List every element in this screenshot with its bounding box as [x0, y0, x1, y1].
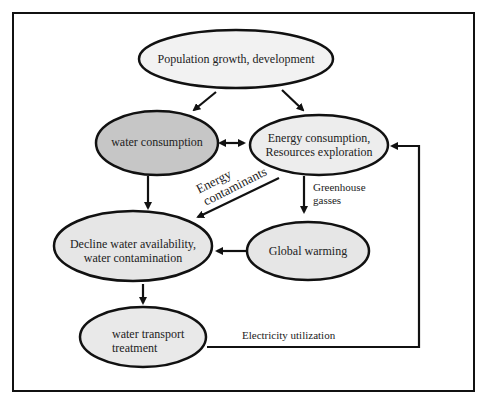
arrow-population-to-energy — [282, 90, 303, 110]
node-energy-label: Energy consumption, Resources exploratio… — [266, 131, 373, 159]
node-decline-line-1: Decline water availability, — [70, 237, 196, 251]
edge-label-gasses: gasses — [313, 194, 341, 207]
node-water-transport-label: water transport treatment — [112, 327, 184, 355]
node-decline-label: Decline water availability, water contam… — [70, 237, 196, 265]
node-water-transport-line-1: water transport — [112, 327, 184, 341]
node-energy-line-2: Resources exploration — [266, 145, 373, 159]
edge-label-greenhouse: Greenhouse — [313, 181, 366, 194]
node-water-transport-line-2: treatment — [112, 341, 184, 355]
edge-label-electricity: Electricity utilization — [242, 329, 335, 342]
node-decline-line-2: water contamination — [70, 251, 196, 265]
node-global-warming-label: Global warming — [269, 245, 347, 258]
node-energy-line-1: Energy consumption, — [266, 131, 373, 145]
node-population-label: Population growth, development — [158, 53, 315, 66]
node-water-consumption-label: water consumption — [111, 136, 203, 149]
arrow-population-to-water — [194, 92, 216, 110]
